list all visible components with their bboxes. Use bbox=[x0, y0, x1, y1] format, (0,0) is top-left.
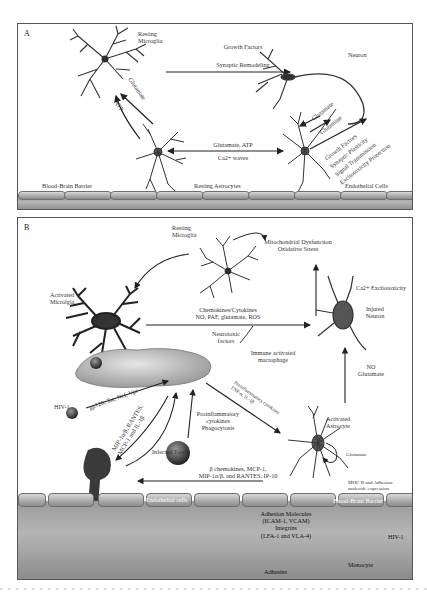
glutamate-loop-label: Glutamate bbox=[346, 451, 367, 458]
activated-microglia-icon bbox=[66, 286, 140, 353]
endothelial-cells-label-a: Endothelial Cells bbox=[345, 182, 388, 189]
mitochondrial-dysfunction-label: Mitochondrial Dysfunction Oxidative Stre… bbox=[243, 238, 353, 252]
neurotoxic-factors-label: Neurotoxic factors bbox=[206, 330, 246, 344]
resting-astrocyte-left-icon bbox=[136, 124, 186, 194]
resting-microglia-label: Resting Microglia bbox=[138, 30, 162, 44]
ca-waves-label: Ca2+ waves bbox=[188, 154, 278, 161]
adhesion-molecules-label: Adhesion Molecules (ICAM-1, VCAM) Integr… bbox=[246, 510, 326, 539]
blood-brain-barrier-a bbox=[18, 190, 412, 210]
panel-b: B Resting Microglia Mitochondrial Dysfun… bbox=[17, 217, 413, 580]
panel-a: A Resting Microglia Growth Factors Synap… bbox=[17, 23, 413, 210]
caption-cutoff bbox=[0, 583, 427, 592]
no-glutamate-label: NO Glutamate bbox=[351, 363, 391, 377]
synaptic-remodeling-label: Synaptic Remodeling bbox=[188, 61, 298, 68]
resting-microglia-b-label: Resting Microglia bbox=[172, 224, 196, 238]
panel-a-label: A bbox=[24, 29, 30, 38]
monocyte-label: Monocyte bbox=[348, 561, 373, 568]
panel-b-label: B bbox=[24, 223, 29, 232]
mhc-ii-label: MHC II and Adhesion molecule expression bbox=[348, 480, 393, 492]
activated-astrocyte-label: Activated Astrocyte bbox=[318, 415, 358, 429]
hiv-left-label: HIV-1 bbox=[54, 403, 70, 410]
chemokines-cytokines-label: Chemokines/Cytokines NO, PAF, glutamate,… bbox=[168, 306, 288, 320]
injured-neuron-label: Injured Neuron bbox=[360, 305, 390, 319]
growth-factors-label: Growth Factors bbox=[193, 43, 293, 50]
infected-tcell-text: Infected T-cell bbox=[152, 448, 188, 455]
activated-microglia-label: Activated Microlgia bbox=[50, 291, 74, 305]
hiv-right-label: HIV-1 bbox=[388, 533, 404, 540]
endothelial-cells-label-b: Endothelial cells bbox=[146, 496, 187, 503]
resting-astrocytes-label: Resting Astrocytes bbox=[194, 182, 241, 189]
bbb-label-a: Blood-Brain Barrier bbox=[42, 182, 92, 189]
ca-excitotoxicity-label: Ca2+ Excitotoxicity bbox=[356, 284, 406, 291]
macrophage-label: Immune activated macrophage bbox=[243, 349, 303, 363]
bbb-label-b: Blood-Brain Barrier bbox=[333, 497, 383, 504]
adhesins-label: Adhesins bbox=[264, 568, 287, 575]
proinflammatory-cytokines-label: Proinflammatory cytokines Phagocytosis bbox=[188, 410, 248, 432]
beta-chemokines-label: β chemokines, MCP-1, MIP-1α/β, and RANTE… bbox=[163, 465, 313, 479]
glutamate-atp-label: Glutamate, ATP bbox=[188, 141, 278, 148]
neuron-label: Neuron bbox=[348, 51, 367, 58]
